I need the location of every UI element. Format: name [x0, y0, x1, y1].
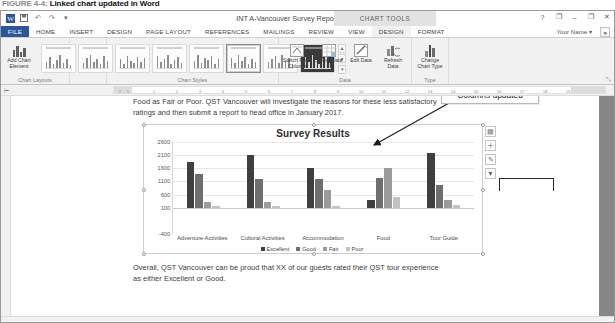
bar-fair[interactable] [264, 202, 272, 207]
bar-good[interactable] [255, 179, 263, 208]
legend-swatch-icon [346, 247, 350, 251]
bar-excellent[interactable] [307, 168, 315, 207]
y-axis-tick-label: 600 [161, 192, 170, 198]
selection-handle[interactable] [481, 123, 485, 127]
add-chart-element-button[interactable]: Add Chart Element [4, 40, 34, 69]
switch-row-column-button[interactable]: Switch Row/ Column [282, 40, 312, 69]
chart-style-thumb-3[interactable] [115, 44, 150, 73]
minimize-button[interactable]: – [570, 14, 579, 21]
selection-handle[interactable] [481, 188, 485, 192]
tab-stop-icon[interactable]: ⊢ [4, 87, 9, 94]
legend-swatch-icon [323, 247, 327, 251]
bar-group-cultural-activities[interactable] [247, 142, 280, 208]
refresh-data-button[interactable]: Refresh Data [378, 40, 408, 69]
chart-style-thumb-2[interactable] [78, 44, 113, 73]
chart-plot-area[interactable] [172, 142, 474, 234]
legend-label: Poor [352, 246, 364, 252]
chart-legend[interactable]: Excellent Good Fair Poor [144, 246, 480, 252]
help-button[interactable]: ? [538, 14, 547, 21]
ribbon-display-options-button[interactable]: ❐ [554, 13, 563, 21]
tab-references[interactable]: REFERENCES [198, 26, 256, 37]
bar-good[interactable] [315, 179, 323, 208]
bar-poor[interactable] [393, 197, 401, 208]
legend-item-good[interactable]: Good [296, 246, 316, 252]
bar-excellent[interactable] [247, 155, 255, 208]
chart-style-thumb-5[interactable] [189, 44, 224, 73]
selection-handle[interactable] [312, 123, 316, 127]
tab-insert[interactable]: INSERT [62, 26, 100, 37]
ruler-left-margin [114, 87, 132, 93]
document-area[interactable]: · · · · · · · Food as Fair or Poor. QST … [1, 96, 614, 323]
ruler-track[interactable]: 2 1 1 2 3 4 5 6 7 8 9 10 11 12 13 14 15 … [113, 86, 606, 94]
y-axis-tick-label: 100 [161, 205, 170, 211]
bar-poor[interactable] [272, 206, 280, 207]
chart-filters-button[interactable]: ▼ [485, 168, 496, 179]
legend-item-excellent[interactable]: Excellent [261, 246, 290, 252]
ruler-tick: 6 [268, 89, 270, 94]
ribbon-group-label-chart-styles: Chart Styles [178, 77, 207, 84]
chart-style-thumb-6-selected[interactable] [226, 44, 261, 73]
chart-style-thumb-1[interactable] [41, 44, 76, 73]
y-axis-tick-label: 1100 [158, 178, 170, 184]
ruler-tick: 7 [291, 89, 293, 94]
horizontal-ruler[interactable]: ⊢ 2 1 1 2 3 4 5 6 7 8 9 10 11 12 13 14 1… [1, 85, 614, 96]
close-button[interactable]: ✕ [602, 13, 611, 21]
tab-page-layout[interactable]: PAGE LAYOUT [139, 26, 198, 37]
window-title: INT A-Vancouver Survey Report.docx - Wor… [1, 14, 614, 23]
bar-fair[interactable] [324, 190, 332, 208]
tab-view[interactable]: VIEW [341, 26, 372, 37]
bar-excellent[interactable] [367, 200, 375, 208]
change-chart-type-button[interactable]: Change Chart Type [415, 40, 445, 69]
y-axis-tick-label: 1600 [158, 165, 170, 171]
bar-group-adventure-activities[interactable] [187, 142, 220, 208]
bar-poor[interactable] [332, 206, 340, 208]
bar-fair[interactable] [444, 200, 452, 208]
switch-row-column-icon [290, 40, 304, 57]
tab-file[interactable]: FILE [1, 26, 29, 37]
layout-options-button[interactable]: ▤ [485, 126, 496, 137]
bar-good[interactable] [195, 174, 203, 207]
tab-chart-format[interactable]: FORMAT [411, 26, 452, 37]
bar-good[interactable] [436, 185, 444, 208]
legend-item-fair[interactable]: Fair [323, 246, 339, 252]
select-data-button[interactable]: Select Data [314, 40, 344, 64]
switch-row-column-label: Switch Row/ Column [282, 58, 312, 69]
edit-data-button[interactable]: Edit Data [346, 40, 376, 64]
legend-item-poor[interactable]: Poor [346, 246, 364, 252]
paragraph-below-chart[interactable]: Overall, QST Vancouver can be proud that… [133, 263, 443, 284]
ruler-tick: 18 [543, 89, 548, 94]
restore-button[interactable]: ❐ [586, 13, 595, 21]
chart-y-axis[interactable]: 2600 2100 1600 1100 600 100 -400 [146, 142, 170, 234]
ribbon-dialog-launcher[interactable]: ⤡ [606, 76, 611, 83]
bar-excellent[interactable] [187, 162, 195, 208]
tab-design[interactable]: DESIGN [100, 26, 139, 37]
bar-fair[interactable] [384, 168, 392, 207]
chart-styles-button[interactable]: ✎ [485, 154, 496, 165]
selection-handle[interactable] [481, 252, 485, 256]
legend-label: Good [302, 246, 316, 252]
document-page[interactable]: Food as Fair or Poor. QST Vancouver will… [11, 96, 599, 323]
tab-home[interactable]: HOME [29, 26, 62, 37]
bar-good[interactable] [376, 178, 384, 207]
ribbon-group-type: Change Chart Type Type [412, 38, 449, 84]
tab-mailings[interactable]: MAILINGS [256, 26, 301, 37]
tab-chart-design[interactable]: DESIGN [372, 26, 411, 37]
bar-excellent[interactable] [427, 153, 435, 208]
figure-number: FIGURE 4-4: [2, 0, 48, 8]
ruler-tick: 10 [359, 89, 364, 94]
chart-style-thumb-4[interactable] [152, 44, 187, 73]
add-chart-element-icon [13, 40, 26, 57]
bar-group-accommodation[interactable] [307, 142, 340, 208]
selection-handle[interactable] [142, 123, 146, 127]
ribbon-group-label-chart-layouts: Chart Layouts [18, 77, 52, 84]
chart-elements-button[interactable]: ＋ [485, 140, 496, 151]
ruler-tick: 15 [474, 89, 479, 94]
figure-caption-text: Linked chart updated in Word [50, 0, 160, 8]
refresh-data-label: Refresh Data [378, 58, 408, 69]
chart-quick-buttons[interactable]: ▤ ＋ ✎ ▼ [485, 126, 496, 179]
tab-review[interactable]: REVIEW [302, 26, 342, 37]
bar-poor[interactable] [453, 205, 461, 208]
avatar[interactable]: ● [600, 27, 610, 37]
bar-fair[interactable] [204, 202, 212, 208]
bar-poor[interactable] [212, 206, 220, 208]
